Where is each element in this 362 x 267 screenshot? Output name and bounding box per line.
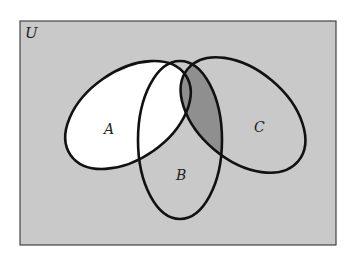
set-b-label: B — [175, 167, 186, 183]
set-a-label: A — [102, 121, 114, 137]
venn-diagram: U A B C — [0, 0, 362, 267]
set-c-label: C — [254, 119, 265, 135]
universe-label: U — [25, 24, 39, 42]
